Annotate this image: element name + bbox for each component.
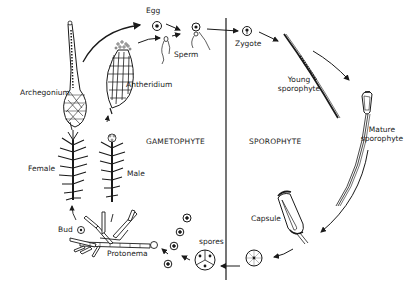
spore-tetrad <box>195 250 215 270</box>
diagram-artwork <box>0 0 411 290</box>
egg-cell <box>153 22 162 31</box>
arrow-antheridium-to-sperm <box>138 38 160 43</box>
arrow-egg-to-zygote <box>166 24 180 30</box>
mature-sporophyte-illustration <box>336 91 372 206</box>
spore-mother-cell <box>246 250 262 266</box>
female-gametophyte-illustration <box>58 130 88 200</box>
moss-life-cycle-diagram: Egg Sperm Zygote Archegonium Antheridium… <box>0 0 411 290</box>
male-label: Male <box>127 170 145 178</box>
arrow-young-to-mature <box>313 51 349 80</box>
egg-label: Egg <box>146 7 160 15</box>
arrow-capsule-to-spore-cell <box>274 249 293 257</box>
capsule-illustration <box>278 192 308 245</box>
bud-label: Bud <box>58 226 73 234</box>
arrow-archegonium-to-egg <box>83 25 140 62</box>
arrow-protonema-to-male <box>111 214 113 222</box>
capsule-label: Capsule <box>251 215 281 223</box>
antheridium-illustration <box>107 41 134 114</box>
young-sporophyte-label-line2: sporophyte <box>276 85 322 93</box>
female-label: Female <box>28 165 55 173</box>
arrow-bud-to-female <box>72 206 76 220</box>
mature-sporophyte-label-line1: Mature <box>362 126 402 134</box>
arrow-tetrad-to-spores <box>182 256 190 260</box>
arrow-zygote-to-young-sporophyte <box>259 32 278 41</box>
arrow-to-zygote <box>207 29 238 31</box>
sperm-cell <box>162 37 170 65</box>
protonema-label: Protonema <box>107 250 148 258</box>
bud-illustration <box>78 227 85 234</box>
archegonium-illustration <box>64 21 87 127</box>
arrow-spore-to-protonema <box>162 249 168 254</box>
mature-sporophyte-label-line2: sporophyte <box>358 135 406 143</box>
spores-label: spores <box>199 238 224 246</box>
archegonium-label: Archegonium <box>20 89 70 97</box>
arrow-sperm-to-zygote <box>172 34 180 36</box>
sperm-label: Sperm <box>174 51 198 59</box>
released-spores <box>164 214 191 268</box>
fertilization-cell <box>192 23 210 50</box>
sporophyte-phase-label: SPOROPHYTE <box>249 137 301 146</box>
male-gametophyte-illustration <box>99 134 125 202</box>
gametophyte-phase-label: GAMETOPHYTE <box>146 137 205 146</box>
antheridium-label: Antheridium <box>126 81 172 89</box>
zygote-label: Zygote <box>235 40 261 48</box>
young-sporophyte-label-line1: Young <box>281 76 317 84</box>
arrow-male-to-antheridium <box>107 116 108 122</box>
zygote-cell <box>243 27 252 36</box>
